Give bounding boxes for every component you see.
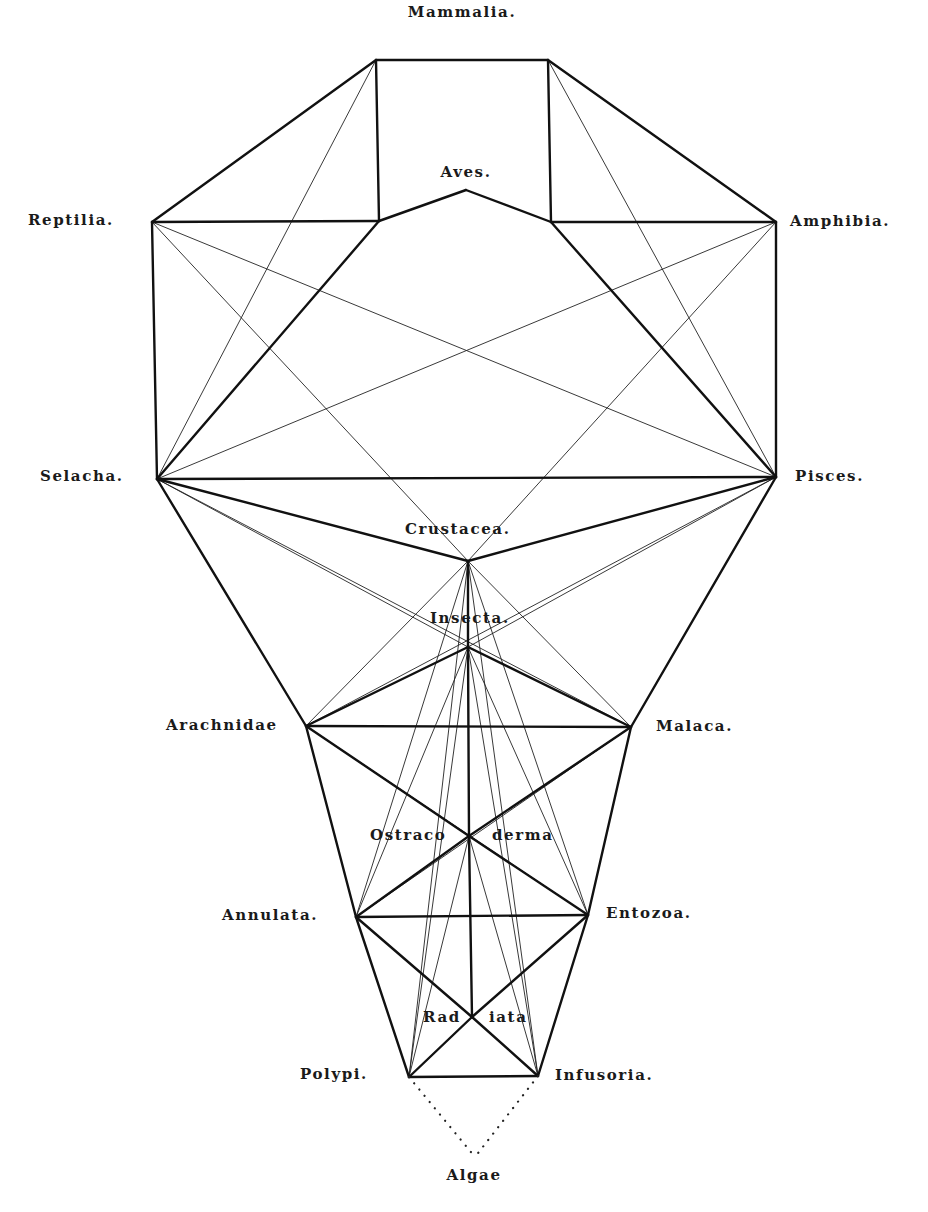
thin-edge-crustacea-infusoria (468, 561, 538, 1076)
taxon-label: Reptilia. (28, 211, 114, 229)
thick-edge-mammalia_r-aves_r (548, 60, 551, 222)
dotted-edges (409, 1076, 538, 1157)
thin-edge-pisces-insecta (468, 477, 776, 647)
thick-edge-selacha-arachnidae (157, 479, 306, 726)
thick-edge-mammalia_l-reptilia (152, 60, 376, 222)
dotted-edge-infusoria-algae (475, 1076, 538, 1157)
thin-edge-amphibia-selacha (157, 222, 776, 479)
thick-edge-mammalia_r-amphibia (548, 60, 776, 222)
thick-edge-mammalia_l-aves_l (376, 60, 379, 221)
thin-edge-reptilia-pisces (152, 222, 776, 477)
thick-edge-pisces-crustacea (468, 477, 776, 561)
thick-edge-ostracoderma-radiata (469, 836, 472, 1017)
taxon-label: Infusoria. (555, 1066, 653, 1084)
affinity-diagram: Mammalia.Aves.Reptilia.Amphibia.Selacha.… (0, 0, 928, 1212)
thick-edge-entozoa-radiata (472, 915, 588, 1017)
taxon-label: Entozoa. (606, 904, 692, 922)
taxon-label: Selacha. (40, 467, 124, 485)
thick-edge-insecta-malaca (468, 647, 631, 727)
taxon-label: Pisces. (795, 467, 864, 485)
thick-edge-polypi-infusoria (409, 1076, 538, 1077)
taxon-label: Crustacea. (405, 520, 510, 538)
taxon-label: Mammalia. (408, 3, 517, 21)
thin-edge-crustacea-polypi (409, 561, 468, 1077)
thin-edge-selacha-malaca (157, 479, 631, 727)
thin-edge-pisces-arachnidae (306, 477, 776, 726)
taxon-label: Annulata. (221, 906, 318, 924)
taxon-label: derma (492, 826, 554, 844)
thick-edge-reptilia-aves_l (152, 221, 379, 222)
thick-edge-selacha-pisces (157, 477, 776, 479)
taxon-label: Algae (445, 1166, 501, 1184)
thin-edge-amphibia-crustacea (468, 222, 776, 561)
thick-edge-aves_l-aves_peak (379, 190, 466, 221)
thin-edge-selacha-insecta (157, 479, 468, 647)
taxon-label: iata (489, 1008, 527, 1026)
taxon-label: Polypi. (300, 1065, 368, 1083)
taxon-label: Rad (423, 1008, 461, 1026)
thick-edge-annulata-entozoa (356, 915, 588, 917)
thin-edge-ostracoderma-infusoria (469, 836, 538, 1076)
thick-edge-radiata-polypi (409, 1017, 472, 1077)
dotted-edge-polypi-algae (409, 1077, 475, 1157)
thick-edge-pisces-malaca (631, 477, 776, 727)
thick-edge-malaca-entozoa (588, 727, 631, 915)
taxon-label: Arachnidae (165, 716, 278, 734)
thick-edges (152, 60, 776, 1077)
thick-edge-reptilia-selacha (152, 222, 157, 479)
thick-edge-insecta-arachnidae (306, 647, 468, 726)
thin-edge-reptilia-crustacea (152, 222, 468, 561)
thick-edge-aves_r-pisces (551, 222, 776, 477)
thick-edge-aves_l-selacha (157, 221, 379, 479)
thick-edge-arachnidae-malaca (306, 726, 631, 727)
taxon-label: Amphibia. (789, 212, 890, 230)
taxon-label: Aves. (440, 163, 492, 181)
thick-edge-malaca-ostracoderma (469, 727, 631, 836)
thick-edge-insecta-ostracoderma (468, 647, 469, 836)
taxon-label: Ostraco (370, 826, 446, 844)
thin-edge-mammalia_r-pisces (548, 60, 776, 477)
thin-edge-crustacea-arachnidae (306, 561, 468, 726)
thick-edge-entozoa-infusoria (538, 915, 588, 1076)
taxon-label: Malaca. (656, 717, 733, 735)
thin-edge-mammalia_l-selacha (157, 60, 376, 479)
thick-edge-aves_peak-aves_r (466, 190, 551, 222)
taxon-label: Insecta. (430, 609, 510, 627)
thin-edges (152, 60, 776, 1077)
